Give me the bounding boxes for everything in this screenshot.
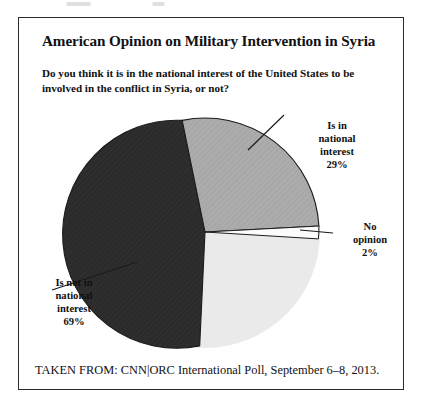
pie-label-is-not-in-line-1: Is not in (31, 277, 117, 290)
pie-chart: Is in national interest 29% No opinion 2… (19, 18, 405, 391)
pie-label-is-in-line-2: national (300, 133, 374, 146)
pie-label-is-in-national-interest: Is in national interest 29% (300, 120, 374, 172)
pie-chart-svg (19, 18, 405, 391)
pie-label-is-not-in-line-3: interest (31, 303, 117, 316)
scan-artifact (60, 2, 230, 6)
pie-slice-is-in-national-interest[interactable] (182, 118, 319, 232)
pie-label-is-not-in-national-interest: Is not in national interest 69% (31, 277, 117, 329)
pie-label-no-opinion-line-2: opinion (339, 234, 401, 247)
pie-label-no-opinion-line-1: No (339, 221, 401, 234)
pie-label-no-opinion-value: 2% (339, 247, 401, 260)
pie-label-is-not-in-value: 69% (31, 316, 117, 329)
pie-label-no-opinion: No opinion 2% (339, 221, 401, 260)
pie-label-is-in-line-3: interest (300, 146, 374, 159)
figure-frame: American Opinion on Military Interventio… (18, 17, 404, 390)
pie-label-is-in-value: 29% (300, 159, 374, 172)
figure-source-note: TAKEN FROM: CNN|ORC International Poll, … (35, 363, 393, 378)
pie-label-is-in-line-1: Is in (300, 120, 374, 133)
pie-label-is-not-in-line-2: national (31, 290, 117, 303)
